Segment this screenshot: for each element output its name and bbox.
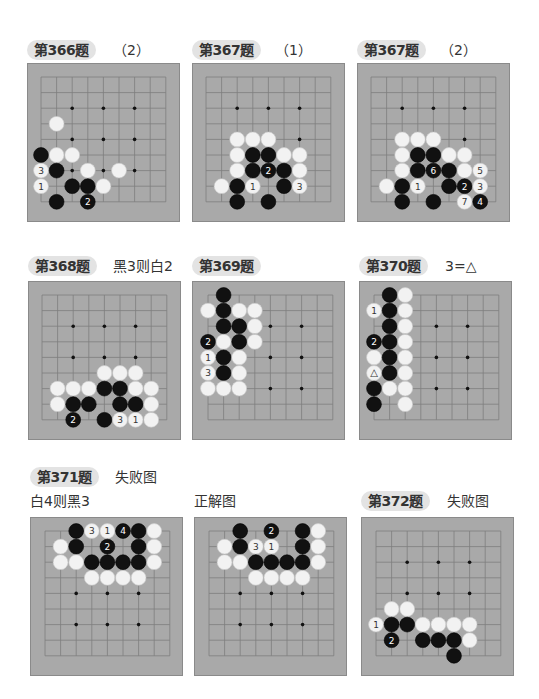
white-stone: 3 xyxy=(292,179,307,194)
star-point xyxy=(298,106,302,110)
problem-number-badge: 第369题 xyxy=(192,256,261,276)
black-stone xyxy=(442,179,457,194)
black-stone: 2 xyxy=(384,633,399,648)
black-stone xyxy=(367,397,382,412)
star-point xyxy=(468,592,472,596)
white-stone xyxy=(201,303,216,318)
star-point xyxy=(133,138,137,142)
black-stone xyxy=(100,555,115,570)
white-stone: 1 xyxy=(367,303,382,318)
white-stone xyxy=(311,539,326,554)
white-stone xyxy=(280,570,295,585)
white-stone xyxy=(447,617,462,632)
problem-number-badge: 第366题 xyxy=(27,40,96,60)
white-stone xyxy=(96,179,111,194)
move-number: 1 xyxy=(105,526,111,536)
white-stone xyxy=(398,319,413,334)
black-stone xyxy=(295,524,310,539)
go-board-diagram: 3142 xyxy=(30,517,183,676)
move-number: 6 xyxy=(431,166,437,176)
black-stone xyxy=(261,194,276,209)
star-point xyxy=(102,106,106,110)
star-point xyxy=(102,169,106,173)
white-stone xyxy=(398,334,413,349)
star-point xyxy=(466,387,470,391)
white-stone xyxy=(232,303,247,318)
black-stone: 6 xyxy=(426,163,441,178)
white-stone xyxy=(112,163,127,178)
star-point xyxy=(269,324,273,328)
star-point xyxy=(300,387,304,391)
black-stone xyxy=(131,539,146,554)
black-stone xyxy=(216,303,231,318)
go-board-grid: 12 xyxy=(362,518,515,677)
move-number: 2 xyxy=(205,337,211,347)
white-stone xyxy=(247,319,262,334)
move-number: 1 xyxy=(415,182,421,192)
white-stone xyxy=(426,132,441,147)
black-stone: 2 xyxy=(80,194,95,209)
star-point xyxy=(137,623,141,627)
black-stone xyxy=(382,319,397,334)
black-stone xyxy=(113,381,128,396)
white-stone xyxy=(277,148,292,163)
black-stone xyxy=(230,179,245,194)
white-stone xyxy=(97,366,112,381)
star-point xyxy=(267,106,271,110)
move-number: 7 xyxy=(462,197,468,207)
go-board-grid: 231 xyxy=(29,282,182,441)
white-stone xyxy=(395,163,410,178)
white-stone xyxy=(398,303,413,318)
star-point xyxy=(103,324,107,328)
white-stone xyxy=(131,570,146,585)
black-stone xyxy=(128,397,143,412)
white-stone xyxy=(264,570,279,585)
go-board-diagram: 213 xyxy=(192,63,345,222)
white-stone: 3 xyxy=(473,179,488,194)
star-point xyxy=(270,623,274,627)
white-stone: 1 xyxy=(369,617,384,632)
white-stone: 1 xyxy=(128,412,143,427)
black-stone xyxy=(216,288,231,303)
black-stone xyxy=(264,555,279,570)
black-stone: 2 xyxy=(457,179,472,194)
white-stone xyxy=(415,617,430,632)
white-stone: 3 xyxy=(84,524,99,539)
star-point xyxy=(74,623,78,627)
problem-number-badge: 第372题 xyxy=(361,491,430,511)
black-stone xyxy=(261,148,276,163)
star-point xyxy=(270,592,274,596)
move-number: 2 xyxy=(371,337,377,347)
black-stone xyxy=(295,539,310,554)
black-stone xyxy=(230,194,245,209)
star-point xyxy=(463,138,467,142)
star-point xyxy=(133,169,137,173)
problem-note: （2） xyxy=(440,40,477,60)
white-stone xyxy=(84,570,99,585)
go-board-diagram: 231 xyxy=(28,281,181,440)
black-stone xyxy=(382,334,397,349)
move-number: 3 xyxy=(38,166,44,176)
star-point xyxy=(435,324,439,328)
white-stone xyxy=(214,179,229,194)
move-number: 3 xyxy=(205,368,211,378)
star-point xyxy=(298,138,302,142)
white-stone xyxy=(462,633,477,648)
white-stone xyxy=(232,350,247,365)
go-board-grid: 312 xyxy=(28,64,181,223)
black-stone xyxy=(49,163,64,178)
white-stone: 7 xyxy=(457,194,472,209)
black-stone xyxy=(216,319,231,334)
star-point xyxy=(71,356,75,360)
black-stone xyxy=(84,555,99,570)
go-board-diagram: 213 xyxy=(192,281,345,440)
star-point xyxy=(106,592,110,596)
black-stone xyxy=(232,319,247,334)
white-stone xyxy=(53,555,68,570)
white-stone: 1 xyxy=(34,179,49,194)
go-board-grid: 213 xyxy=(193,282,346,441)
go-board-grid: 213 xyxy=(193,64,346,223)
black-stone xyxy=(295,555,310,570)
black-stone xyxy=(395,194,410,209)
diagram-caption: 正解图 xyxy=(194,491,236,511)
